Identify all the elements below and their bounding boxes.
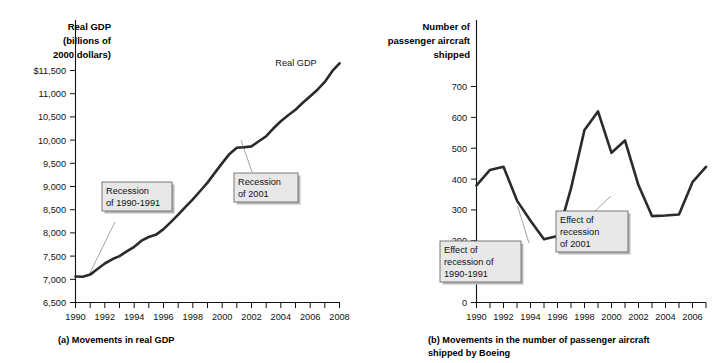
panel-b-y-axis-title-line3: shipped [434, 49, 471, 60]
panel-a-y-tick-4: 9,500 [43, 159, 66, 169]
panel-a-x-tick-4: 1998 [183, 312, 203, 322]
panel-a-y-tick-3: 10,000 [38, 136, 66, 146]
panel-a-y-tick-7: 8,000 [43, 228, 66, 238]
panel-a-x-tick-2: 1994 [124, 312, 144, 322]
panel-a-real-gdp: Real GDP (billions of 2000 dollars) $1 [0, 0, 360, 363]
panel-b-x-tick-7: 2004 [655, 312, 675, 322]
panel-b-y-tick-1: 600 [452, 113, 467, 123]
panel-a-y-ticks [70, 71, 76, 303]
panel-b-caption-line2: shipped by Boeing [428, 348, 510, 358]
panel-b-caption-line1: (b) Movements in the number of passenger… [428, 335, 650, 345]
panel-b-x-ticks [477, 303, 707, 309]
panel-a-y-axis-title-line2: (billions of [63, 35, 112, 46]
panel-b-x-tick-3: 1996 [547, 312, 567, 322]
panel-a-y-axis-title-line1: Real GDP [68, 21, 112, 32]
panel-a-x-tick-0: 1990 [65, 312, 85, 322]
panel-a-callout-2-leader [241, 140, 252, 172]
panel-a-svg: Real GDP (billions of 2000 dollars) $1 [0, 0, 360, 363]
panel-a-x-tick-3: 1996 [153, 312, 173, 322]
panel-a-x-tick-9: 2008 [329, 312, 349, 322]
panel-a-y-tick-8: 7,500 [43, 252, 66, 262]
panel-a-y-tick-10: 6,500 [43, 298, 66, 308]
panel-b-callout-1-line3: 1990-1991 [444, 269, 488, 279]
panel-a-callout-recession-1990-1991: Recession of 1990-1991 [102, 182, 175, 214]
panel-a-callout-1-line2: of 1990-1991 [106, 198, 160, 208]
panel-b-y-tick-2: 500 [452, 144, 467, 154]
panel-a-y-tick-1: 11,000 [39, 89, 66, 99]
panel-a-callout-1-leader [89, 222, 116, 276]
panel-a-y-tick-6: 8,500 [43, 205, 66, 215]
panel-b-y-axis-title-line1: Number of [423, 21, 471, 32]
panel-a-data-line [76, 63, 340, 276]
panel-b-x-tick-0: 1990 [466, 312, 486, 322]
panel-a-series-label: Real GDP [275, 58, 316, 68]
panel-b-x-tick-8: 2006 [682, 312, 702, 322]
panel-a-x-tick-8: 2006 [300, 312, 320, 322]
panel-a-caption: (a) Movements in real GDP [58, 335, 174, 345]
panel-b-aircraft-shipped: Number of passenger aircraft shipped 700… [360, 0, 717, 363]
panel-a-x-ticks [76, 303, 340, 309]
panel-b-x-tick-2: 1994 [520, 312, 540, 322]
panel-b-y-tick-0: 700 [452, 82, 467, 92]
panel-a-x-tick-1: 1992 [95, 312, 115, 322]
panel-b-x-tick-6: 2002 [628, 312, 648, 322]
panel-a-callout-1-line1: Recession [106, 186, 149, 196]
panel-a-x-tick-6: 2002 [241, 312, 261, 322]
panel-b-y-tick-4: 300 [452, 205, 467, 215]
panel-b-callout-2-line1: Effect of [560, 215, 594, 225]
panel-b-x-tick-4: 1998 [574, 312, 594, 322]
panel-a-y-tick-2: 10,500 [38, 112, 66, 122]
panel-b-callout-effect-recession-1990-1991: Effect of recession of 1990-1991 [440, 241, 524, 285]
panel-a-y-tick-5: 9,000 [43, 182, 66, 192]
panel-a-x-tick-5: 2000 [212, 312, 232, 322]
panel-a-y-axis-title-line3: 2000 dollars) [53, 49, 111, 60]
panel-a-callout-recession-2001: Recession of 2001 [234, 173, 301, 205]
panel-b-callout-2-line3: of 2001 [560, 239, 591, 249]
panel-b-callout-2-line2: recession [560, 227, 599, 237]
panel-b-y-tick-7: 0 [462, 298, 467, 308]
panel-b-x-tick-1: 1992 [493, 312, 513, 322]
panel-a-y-tick-0: $11,500 [33, 66, 66, 76]
panel-b-y-axis-title-line2: passenger aircraft [388, 35, 471, 46]
panel-b-callout-effect-recession-2001: Effect of recession of 2001 [556, 211, 631, 255]
panel-a-callout-2-line1: Recession [238, 177, 281, 187]
figure-container: Real GDP (billions of 2000 dollars) $1 [0, 0, 717, 363]
panel-a-y-tick-9: 7,000 [43, 275, 66, 285]
panel-b-x-tick-5: 2000 [601, 312, 621, 322]
panel-b-svg: Number of passenger aircraft shipped 700… [360, 0, 717, 363]
panel-b-y-tick-3: 400 [452, 175, 467, 185]
panel-a-callout-2-line2: of 2001 [238, 189, 269, 199]
panel-b-callout-1-line2: recession of [444, 257, 494, 267]
panel-a-x-tick-7: 2004 [271, 312, 291, 322]
panel-b-callout-1-line1: Effect of [444, 245, 478, 255]
